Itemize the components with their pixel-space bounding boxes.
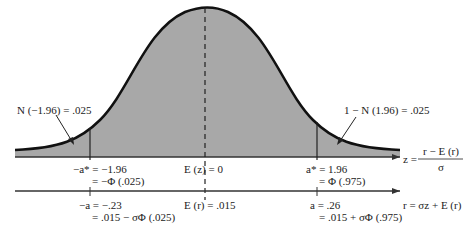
right-tail-pointer xyxy=(340,117,356,141)
z-formula-numerator: r − E (r) xyxy=(418,145,464,157)
r-formula: r = σz + E (r) xyxy=(403,199,461,212)
z-formula-denominator: σ xyxy=(418,161,464,173)
neg-a-phi-label: = .015 − σΦ (.025) xyxy=(92,211,175,224)
z-formula-lhs: z = xyxy=(403,153,417,166)
astar-phi-label: = Φ (.975) xyxy=(319,175,365,188)
curve-area xyxy=(15,8,400,158)
a-phi-label: = .015 + σΦ (.975) xyxy=(319,211,402,224)
er-label: E (r) = .015 xyxy=(184,199,235,212)
right-tail-label: 1 − N (1.96) = .025 xyxy=(344,104,429,117)
ez-label: E (z) = 0 xyxy=(184,163,223,176)
r-axis-arrow-icon xyxy=(392,188,400,194)
neg-astar-phi-label: = −Φ (.025) xyxy=(92,175,145,188)
left-tail-label: N (−1.96) = .025 xyxy=(17,104,91,117)
